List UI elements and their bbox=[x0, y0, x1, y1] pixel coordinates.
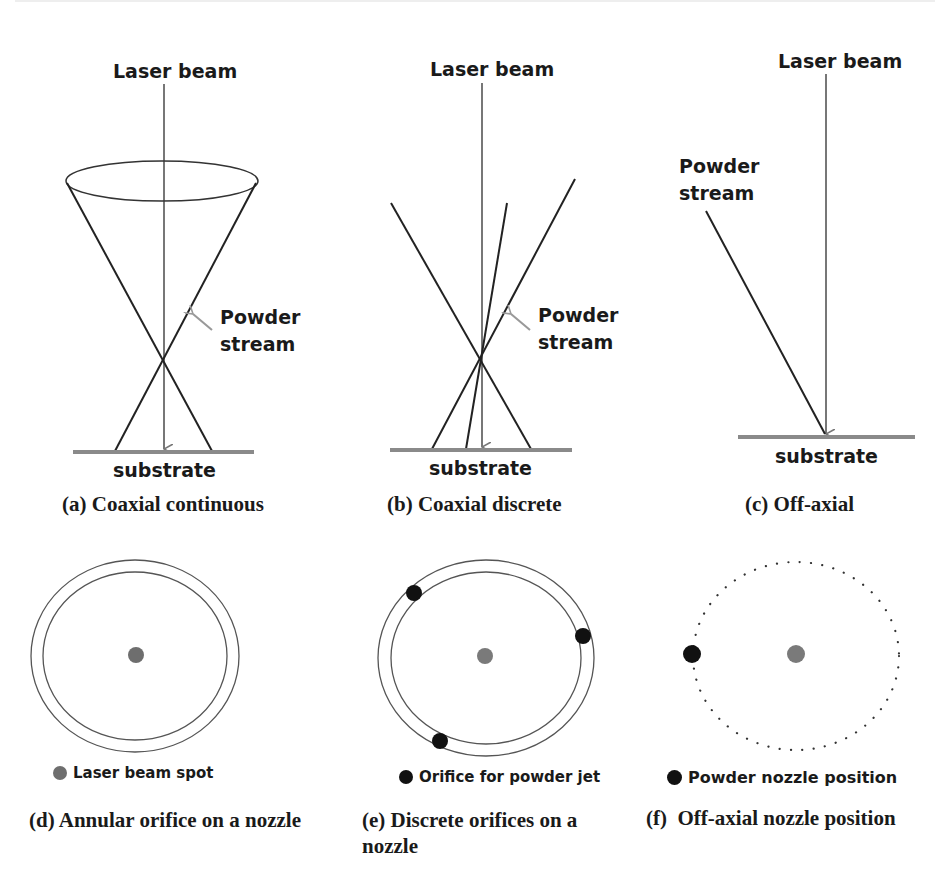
panel-b-powder-line1: Powder bbox=[538, 304, 618, 327]
powder-orifice bbox=[432, 733, 448, 749]
laser-beam-spot bbox=[477, 648, 493, 664]
powder-feeding-diagram: Laser beam Powder stream substrate (a) C… bbox=[0, 0, 950, 888]
panel-b-powder-line2: stream bbox=[538, 331, 618, 354]
panel-c-powder-label: Powder stream bbox=[679, 155, 759, 205]
panel-d-legend: Laser beam spot bbox=[53, 764, 213, 782]
panel-e-caption-line1: (e) Discrete orifices on a bbox=[362, 808, 577, 832]
panel-d-caption: (d) Annular orifice on a nozzle bbox=[29, 808, 301, 832]
powder-orifice bbox=[575, 628, 591, 644]
panel-b-laser-label: Laser beam bbox=[430, 58, 554, 81]
panel-a-powder-line1: Powder bbox=[220, 306, 300, 329]
panel-c-powder-line2: stream bbox=[679, 182, 759, 205]
nozzle-cone-top-ellipse bbox=[66, 161, 258, 201]
panel-f-off-axial-nozzle bbox=[683, 562, 899, 750]
panel-a-caption: (a) Coaxial continuous bbox=[62, 492, 264, 516]
powder-orifice bbox=[406, 585, 422, 601]
panel-e-legend-label: Orifice for powder jet bbox=[419, 768, 600, 786]
panel-e-caption-line2: nozzle bbox=[362, 834, 577, 858]
powder-pointer-arrow bbox=[193, 314, 212, 330]
panel-f-legend: Powder nozzle position bbox=[667, 768, 897, 787]
nozzle-legend-icon bbox=[667, 770, 682, 785]
laser-spot-legend-icon bbox=[53, 766, 67, 780]
orifice-legend-icon bbox=[399, 770, 413, 784]
panel-d-legend-label: Laser beam spot bbox=[73, 764, 213, 782]
panel-b-caption: (b) Coaxial discrete bbox=[387, 492, 562, 516]
diagram-graphics bbox=[0, 0, 950, 888]
powder-pointer-arrow bbox=[511, 314, 530, 330]
panel-a-powder-line2: stream bbox=[220, 333, 300, 356]
panel-b-coaxial-discrete bbox=[390, 83, 575, 450]
panel-a-powder-label: Powder stream bbox=[220, 306, 300, 356]
panel-f-legend-label: Powder nozzle position bbox=[688, 768, 897, 787]
panel-c-caption: (c) Off-axial bbox=[745, 492, 854, 516]
panel-d-annular-orifice bbox=[31, 560, 239, 752]
panel-a-substrate-label: substrate bbox=[113, 459, 216, 482]
laser-beam-spot bbox=[787, 645, 805, 663]
panel-a-laser-label: Laser beam bbox=[113, 60, 237, 83]
powder-stream-line bbox=[706, 211, 825, 434]
panel-b-powder-label: Powder stream bbox=[538, 304, 618, 354]
laser-beam-spot bbox=[128, 647, 144, 663]
panel-e-discrete-orifices bbox=[378, 560, 594, 756]
powder-stream-mid-line bbox=[466, 203, 507, 449]
powder-nozzle-position bbox=[683, 645, 701, 663]
panel-c-off-axial bbox=[706, 74, 915, 437]
panel-f-caption: (f) Off-axial nozzle position bbox=[646, 806, 896, 830]
panel-c-laser-label: Laser beam bbox=[778, 50, 902, 73]
powder-stream-left-line bbox=[67, 183, 212, 451]
panel-c-powder-line1: Powder bbox=[679, 155, 759, 178]
panel-b-substrate-label: substrate bbox=[429, 457, 532, 480]
panel-c-substrate-label: substrate bbox=[775, 445, 878, 468]
powder-stream-left-line bbox=[391, 203, 531, 449]
panel-e-legend: Orifice for powder jet bbox=[399, 768, 600, 786]
panel-a-coaxial-continuous bbox=[66, 84, 258, 452]
panel-e-caption: (e) Discrete orifices on a nozzle bbox=[362, 808, 577, 858]
